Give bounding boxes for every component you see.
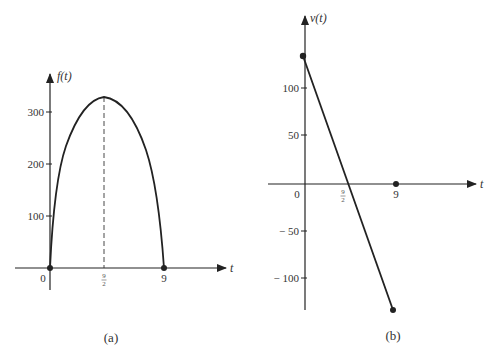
- panel-a-chart: 100 200 300 f(t) t 0 9 2 9 (a): [15, 69, 234, 345]
- panel-b-y-tick-label-neg100: − 100: [274, 272, 300, 284]
- panel-a-x-tick-label-9: 9: [161, 272, 167, 284]
- panel-a-y-tick-label-300: 300: [28, 106, 45, 118]
- figure: 100 200 300 f(t) t 0 9 2 9 (a) 100 50 − …: [0, 0, 497, 359]
- panel-a-y-tick-label-200: 200: [28, 158, 45, 170]
- panel-b-x-axis-label: t: [480, 177, 484, 191]
- panel-b-velocity-line: [303, 56, 393, 310]
- panel-b-point-t9-axis: [393, 181, 399, 187]
- panel-a-origin-label: 0: [40, 272, 46, 284]
- panel-b-y-tick-label-50: 50: [288, 129, 300, 141]
- panel-a-y-tick-label-100: 100: [28, 210, 45, 222]
- panel-b-y-tick-label-neg50: − 50: [279, 225, 299, 237]
- panel-b-x-tick-mid-den: 2: [341, 196, 345, 204]
- panel-a-y-axis-label: f(t): [57, 69, 72, 83]
- panel-a-point-origin: [47, 265, 53, 271]
- panel-b-chart: 100 50 − 50 − 100 v(t) t 0 9 2 9 (b): [268, 11, 484, 343]
- panel-b-x-tick-label-9: 9: [393, 188, 399, 200]
- panel-b-point-end: [390, 307, 396, 313]
- panel-a-x-tick-mid-num: 9: [102, 272, 106, 280]
- panel-b-origin-label: 0: [294, 188, 300, 200]
- panel-a-point-t9: [161, 265, 167, 271]
- panel-b-y-axis-label: v(t): [310, 11, 327, 25]
- panel-a-curve: [50, 97, 164, 268]
- panel-a-x-tick-mid-den: 2: [102, 280, 106, 288]
- panel-b-x-tick-mid-num: 9: [341, 188, 345, 196]
- panel-a-x-axis-label: t: [230, 261, 234, 275]
- panel-b-y-tick-label-100: 100: [283, 82, 300, 94]
- panel-a-caption: (a): [104, 330, 118, 345]
- panel-b-caption: (b): [385, 328, 400, 343]
- panel-b-point-start: [300, 53, 306, 59]
